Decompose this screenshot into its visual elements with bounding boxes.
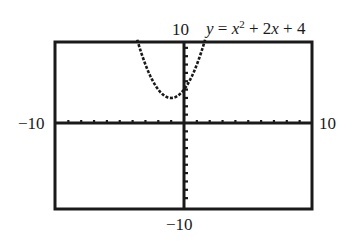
equation-label: y = x2 + 2x + 4 bbox=[206, 19, 305, 37]
parabola-curve bbox=[137, 40, 205, 98]
xmax-label: 10 bbox=[319, 115, 336, 132]
ymax-label: 10 bbox=[172, 21, 189, 38]
xmin-label: −10 bbox=[18, 115, 45, 132]
ymin-label: −10 bbox=[166, 216, 193, 233]
